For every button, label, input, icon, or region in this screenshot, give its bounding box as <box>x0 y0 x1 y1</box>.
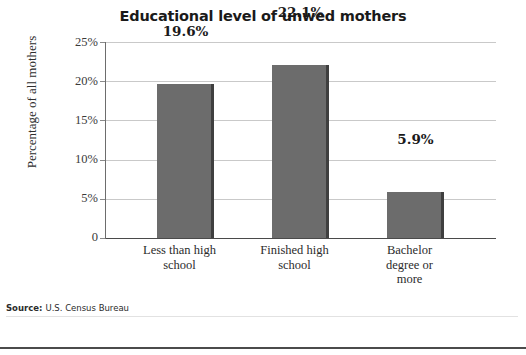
bar-bachelor-degree-or-more[interactable] <box>387 192 444 238</box>
y-axis-title: Percentage of all mothers <box>24 7 40 197</box>
plot-area: 19.6% 22.1% 5.9% <box>106 42 496 238</box>
x-category-line: Less than high <box>114 243 245 258</box>
x-category-line: Finished high <box>229 243 360 258</box>
y-tick-label-10: 10% <box>52 152 98 167</box>
source-divider <box>6 316 518 317</box>
y-axis-ticks: 25% 20% 15% 10% 5% 0 <box>48 0 98 355</box>
y-tick-label-25: 25% <box>52 35 98 50</box>
y-tick-label-20: 20% <box>52 74 98 89</box>
bar-value-label-1: 19.6% <box>147 23 224 39</box>
y-tick-label-5: 5% <box>52 191 98 206</box>
x-category-label-finished-high-school: Finished high school <box>229 243 360 272</box>
bar-shadow <box>441 192 444 238</box>
x-category-line: school <box>229 258 360 273</box>
x-category-line: school <box>114 258 245 273</box>
y-tick-label-0: 0 <box>52 230 98 245</box>
x-category-label-less-than-high-school: Less than high school <box>114 243 245 272</box>
gridline-25 <box>106 42 496 43</box>
bar-shadow <box>326 65 329 238</box>
x-category-line: degree or <box>344 258 475 273</box>
source-text: U.S. Census Bureau <box>45 303 129 313</box>
bottom-divider <box>0 347 526 349</box>
bar-value-label-2: 22.1% <box>262 4 339 20</box>
x-category-label-bachelor-degree-or-more: Bachelor degree or more <box>344 243 475 287</box>
bar-less-than-high-school[interactable] <box>157 84 214 238</box>
source-label: Source: <box>6 303 42 313</box>
chart-figure: Educational level of unwed mothers Perce… <box>0 0 526 355</box>
y-tick-label-15: 15% <box>52 113 98 128</box>
source-note: Source:U.S. Census Bureau <box>6 303 129 313</box>
bar-finished-high-school[interactable] <box>272 65 329 238</box>
bar-shadow <box>211 84 214 238</box>
bar-value-label-3: 5.9% <box>377 131 454 147</box>
x-axis-baseline <box>106 238 496 239</box>
x-category-line: more <box>344 272 475 287</box>
x-category-line: Bachelor <box>344 243 475 258</box>
